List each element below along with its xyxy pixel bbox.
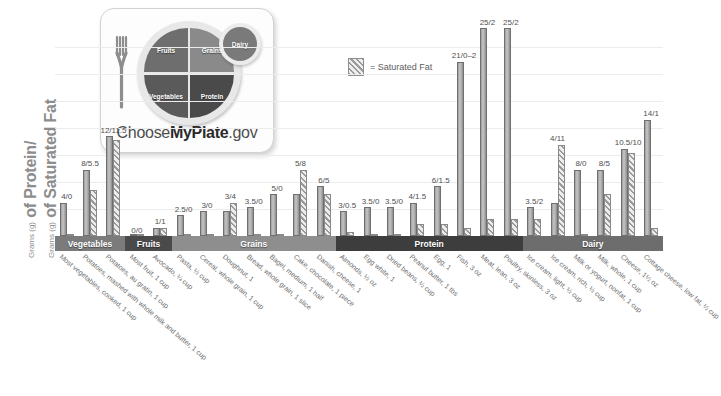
bar-protein[interactable] bbox=[83, 170, 90, 236]
y-axis-units-protein: Grams (g) bbox=[27, 222, 36, 258]
bar-protein[interactable] bbox=[387, 207, 394, 236]
bar-group[interactable]: 3/4 bbox=[219, 20, 242, 236]
bar-saturated-fat[interactable] bbox=[113, 140, 120, 236]
y-axis-text-protein: of Protein/ bbox=[22, 141, 39, 222]
bar-group[interactable]: 0/0 bbox=[125, 20, 148, 236]
bar-saturated-fat[interactable] bbox=[300, 170, 307, 236]
bar-value-label: 1/1 bbox=[155, 218, 166, 226]
bar-saturated-fat[interactable] bbox=[230, 203, 237, 236]
bar-value-label: 21/0–2 bbox=[452, 52, 476, 60]
x-axis-tick-label: Most fruit, 1 cup bbox=[128, 253, 171, 290]
bar-value-label: 3.5/0 bbox=[362, 198, 380, 206]
bar-value-label: 8/5.5 bbox=[81, 160, 99, 168]
category-band-protein: Protein bbox=[336, 236, 523, 251]
bar-value-label: 6/1.5 bbox=[432, 177, 450, 185]
bar-value-label: 10.5/10 bbox=[615, 139, 641, 147]
bar-protein[interactable] bbox=[364, 207, 371, 236]
bar-group[interactable]: 8/5 bbox=[593, 20, 616, 236]
bar-group[interactable]: 4/11 bbox=[546, 20, 569, 236]
bar-value-label: 3.5/2 bbox=[525, 198, 543, 206]
bar-group[interactable]: 5/8 bbox=[289, 20, 312, 236]
x-axis-tick-label: Meat, lean, 3 oz bbox=[479, 253, 522, 290]
bar-protein[interactable] bbox=[434, 186, 441, 236]
bar-value-label: 5/8 bbox=[295, 160, 306, 168]
bar-saturated-fat[interactable] bbox=[511, 219, 518, 236]
bar-value-label: 25/2 bbox=[503, 19, 519, 27]
bar-value-label: 8/0 bbox=[575, 160, 586, 168]
bar-protein[interactable] bbox=[177, 215, 184, 236]
bar-group[interactable]: 3.5/0 bbox=[359, 20, 382, 236]
bar-group[interactable]: 2.5/0 bbox=[172, 20, 195, 236]
x-axis-tick-label: Egg, 1 bbox=[432, 253, 452, 271]
bar-group[interactable]: 8/0 bbox=[569, 20, 592, 236]
bar-protein[interactable] bbox=[317, 186, 324, 236]
bar-group[interactable]: 3.5/0 bbox=[242, 20, 265, 236]
category-band-grains: Grains bbox=[172, 236, 336, 251]
bar-group[interactable]: 3/0 bbox=[195, 20, 218, 236]
bar-protein[interactable] bbox=[223, 211, 230, 236]
bar-protein[interactable] bbox=[293, 194, 300, 236]
bar-protein[interactable] bbox=[410, 203, 417, 236]
bar-value-label: 3.5/0 bbox=[245, 198, 263, 206]
bar-value-label: 4/11 bbox=[550, 135, 565, 143]
bar-group[interactable]: 25/2 bbox=[499, 20, 522, 236]
bar-saturated-fat[interactable] bbox=[604, 194, 611, 236]
bar-saturated-fat[interactable] bbox=[558, 145, 565, 236]
bar-saturated-fat[interactable] bbox=[90, 190, 97, 236]
bar-protein[interactable] bbox=[200, 211, 207, 236]
bar-protein[interactable] bbox=[597, 170, 604, 236]
bar-group[interactable]: 3/0.5 bbox=[336, 20, 359, 236]
bar-protein[interactable] bbox=[480, 28, 487, 236]
bar-value-label: 12/11.5 bbox=[100, 127, 126, 135]
bar-saturated-fat[interactable] bbox=[628, 153, 635, 236]
bar-protein[interactable] bbox=[340, 211, 347, 236]
bar-group[interactable]: 4/1.5 bbox=[406, 20, 429, 236]
bar-group[interactable]: 25/2 bbox=[476, 20, 499, 236]
bar-saturated-fat[interactable] bbox=[417, 224, 424, 236]
plot-area: 4/08/5.512/11.50/01/12.5/03/03/43.5/05/0… bbox=[55, 20, 663, 236]
bar-protein[interactable] bbox=[457, 62, 464, 236]
bar-group[interactable]: 3.5/0 bbox=[382, 20, 405, 236]
bar-group[interactable]: 8/5.5 bbox=[78, 20, 101, 236]
category-band-vegetables: Vegetables bbox=[55, 236, 125, 251]
bar-group[interactable]: 5/0 bbox=[265, 20, 288, 236]
bar-groups: 4/08/5.512/11.50/01/12.5/03/03/43.5/05/0… bbox=[55, 20, 663, 236]
bar-value-label: 3/0 bbox=[201, 202, 212, 210]
bar-group[interactable]: 6/5 bbox=[312, 20, 335, 236]
bar-protein[interactable] bbox=[527, 207, 534, 236]
bar-protein[interactable] bbox=[247, 207, 254, 236]
bar-group[interactable]: 12/11.5 bbox=[102, 20, 125, 236]
bar-group[interactable]: 10.5/10 bbox=[616, 20, 639, 236]
bar-protein[interactable] bbox=[621, 149, 628, 236]
bar-saturated-fat[interactable] bbox=[324, 194, 331, 236]
bar-group[interactable]: 21/0–2 bbox=[452, 20, 475, 236]
bar-protein[interactable] bbox=[60, 203, 67, 236]
bar-protein[interactable] bbox=[270, 194, 277, 236]
bar-saturated-fat[interactable] bbox=[464, 228, 471, 236]
bar-protein[interactable] bbox=[153, 228, 160, 236]
bar-group[interactable]: 14/1 bbox=[639, 20, 662, 236]
bar-value-label: 14/1 bbox=[643, 110, 659, 118]
bar-protein[interactable] bbox=[504, 28, 511, 236]
bar-value-label: 2.5/0 bbox=[175, 206, 193, 214]
bar-group[interactable]: 4/0 bbox=[55, 20, 78, 236]
bar-value-label: 4/0 bbox=[61, 193, 72, 201]
bar-group[interactable]: 3.5/2 bbox=[523, 20, 546, 236]
bar-saturated-fat[interactable] bbox=[487, 219, 494, 236]
bar-saturated-fat[interactable] bbox=[441, 224, 448, 236]
bar-saturated-fat[interactable] bbox=[534, 219, 541, 236]
bar-protein[interactable] bbox=[106, 136, 113, 236]
x-axis-tick-label: Avocado, ¼ cup bbox=[152, 253, 195, 291]
bar-protein[interactable] bbox=[551, 203, 558, 236]
bar-value-label: 6/5 bbox=[318, 177, 329, 185]
bar-value-label: 3/0.5 bbox=[338, 202, 356, 210]
bar-group[interactable]: 6/1.5 bbox=[429, 20, 452, 236]
x-axis-tick-labels: Most vegetables, cooked, 1 cupPotatoes, … bbox=[55, 253, 663, 396]
bar-protein[interactable] bbox=[574, 170, 581, 236]
bar-saturated-fat[interactable] bbox=[651, 228, 658, 236]
bar-value-label: 3/4 bbox=[225, 193, 236, 201]
bar-saturated-fat[interactable] bbox=[160, 228, 167, 236]
bar-value-label: 0/0 bbox=[131, 227, 142, 235]
bar-group[interactable]: 1/1 bbox=[149, 20, 172, 236]
bar-protein[interactable] bbox=[644, 120, 651, 236]
